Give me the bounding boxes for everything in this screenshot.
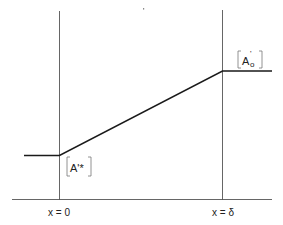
speck-mark — [143, 8, 144, 10]
label-text-a-prime-star: A'* — [70, 162, 84, 174]
label-a-prime-star: A'* — [67, 157, 91, 176]
label-text-prime: ' — [250, 49, 252, 58]
label-x-equals-0: x = 0 — [48, 207, 70, 218]
label-text-subscript-o: o — [250, 60, 255, 69]
label-text-a: A — [242, 55, 250, 67]
label-a-prime-zero: A ' o — [238, 49, 262, 69]
concentration-profile-line — [24, 71, 272, 156]
diagram-canvas: A'* A ' o x = 0 x = δ — [0, 0, 283, 225]
label-x-equals-delta: x = δ — [212, 207, 234, 218]
